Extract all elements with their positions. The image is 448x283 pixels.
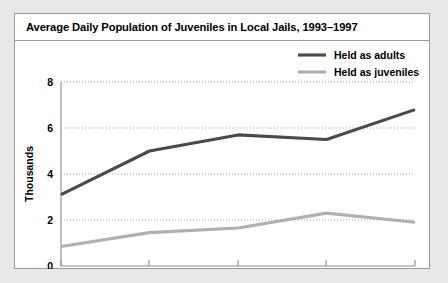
legend-label-held-as-adults: Held as adults [334, 49, 405, 61]
x-tick-marks [61, 260, 415, 266]
chart-card: Average Daily Population of Juveniles in… [14, 13, 430, 269]
series-line-held-as-adults [61, 110, 415, 195]
y-axis-title: Thousands [23, 146, 35, 202]
line-chart: 8 6 4 2 0 Thousands 1993 1994 1995 1996 … [15, 41, 429, 269]
chart-legend: Held as adults Held as juveniles [298, 49, 419, 78]
y-tick-label-8: 8 [47, 76, 53, 88]
y-tick-label-2: 2 [47, 214, 53, 226]
y-tick-label-0: 0 [47, 260, 53, 269]
y-tick-label-6: 6 [47, 122, 53, 134]
gridlines [61, 82, 415, 220]
chart-title-bar: Average Daily Population of Juveniles in… [15, 14, 429, 41]
plot-area: 8 6 4 2 0 Thousands 1993 1994 1995 1996 … [15, 41, 429, 269]
page-title: Average Daily Population of Juveniles in… [26, 21, 358, 33]
y-tick-labels: 8 6 4 2 0 [47, 76, 53, 269]
series-line-held-as-juveniles [61, 213, 415, 246]
y-tick-label-4: 4 [47, 168, 53, 180]
legend-label-held-as-juveniles: Held as juveniles [334, 66, 419, 78]
